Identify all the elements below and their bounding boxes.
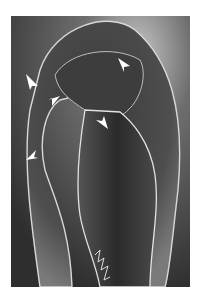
micrograph-image — [11, 16, 190, 287]
